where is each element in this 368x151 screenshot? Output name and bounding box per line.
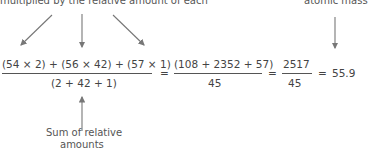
arrow-to-term3 [113,15,144,45]
fraction2-bar [174,73,262,74]
bottom-caption-line2: amounts [60,139,104,151]
fraction3-bar [282,73,312,74]
fraction1-bar [2,73,152,74]
arrow-to-term1 [21,15,52,45]
equals-sign-2: = [268,67,277,79]
fraction3-denominator: 45 [288,77,301,89]
fraction2-denominator: 45 [208,77,221,89]
fraction1-numerator: (54 × 2) + (56 × 42) + (57 × 1) [2,58,171,70]
result-value: 55.9 [332,67,355,79]
top-right-caption: atomic mass [304,0,368,7]
top-left-caption: multiplied by the relative amount of eac… [0,0,208,7]
bottom-caption-line1: Sum of relative [46,127,122,139]
equals-sign-3: = [318,67,327,79]
fraction2-numerator: (108 + 2352 + 57) [174,58,273,70]
equals-sign-1: = [160,67,169,79]
fraction1-denominator: (2 + 42 + 1) [51,77,117,89]
fraction3-numerator: 2517 [283,58,310,70]
